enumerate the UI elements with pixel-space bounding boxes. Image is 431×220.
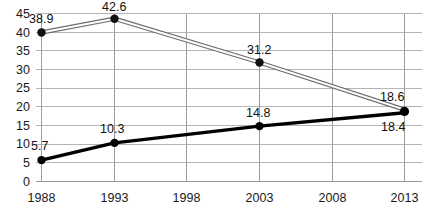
y-tick-45: 45 — [2, 8, 30, 21]
data-point-convergence-2013 — [400, 107, 409, 116]
value-label-upper-2013: 18.6 — [380, 91, 404, 104]
y-tick-20: 20 — [2, 101, 30, 114]
series-upper-markers — [37, 15, 263, 67]
data-point-lower-1988 — [37, 156, 45, 164]
data-point-upper-1988 — [37, 28, 45, 36]
data-point-lower-1993 — [110, 139, 118, 147]
value-label-lower-2003: 14.8 — [246, 107, 270, 120]
y-tick-35: 35 — [2, 45, 30, 58]
x-tick-2003: 2003 — [230, 192, 290, 205]
x-tick-2013: 2013 — [375, 192, 431, 205]
y-tick-30: 30 — [2, 64, 30, 77]
y-tick-0: 0 — [2, 176, 30, 189]
vertical-gridlines — [42, 14, 405, 182]
value-label-lower-1993: 10.3 — [100, 123, 124, 136]
y-tick-10: 10 — [2, 138, 30, 151]
data-point-upper-1993 — [110, 15, 118, 23]
series-lower-line — [42, 113, 405, 160]
value-label-lower-1988: 5.7 — [31, 140, 48, 153]
x-tick-1993: 1993 — [85, 192, 145, 205]
data-point-lower-2003 — [255, 122, 263, 130]
chart-plot-area — [0, 0, 431, 220]
value-label-lower-2013: 18.4 — [381, 121, 405, 134]
y-tick-25: 25 — [2, 82, 30, 95]
y-tick-15: 15 — [2, 120, 30, 133]
value-label-upper-1993: 42.6 — [102, 1, 126, 14]
y-tick-5: 5 — [2, 157, 30, 170]
x-tick-1998: 1998 — [157, 192, 217, 205]
x-tick-1988: 1988 — [12, 192, 72, 205]
value-label-upper-1988: 38.9 — [29, 13, 53, 26]
x-tick-2008: 2008 — [303, 192, 363, 205]
horizontal-gridlines — [36, 14, 422, 163]
line-chart: 45 40 35 30 25 20 15 10 5 0 1988 1993 19… — [0, 0, 431, 220]
y-tick-40: 40 — [2, 27, 30, 40]
data-point-upper-2003 — [255, 58, 263, 66]
value-label-upper-2003: 31.2 — [247, 44, 271, 57]
series-lower-markers — [37, 107, 409, 165]
